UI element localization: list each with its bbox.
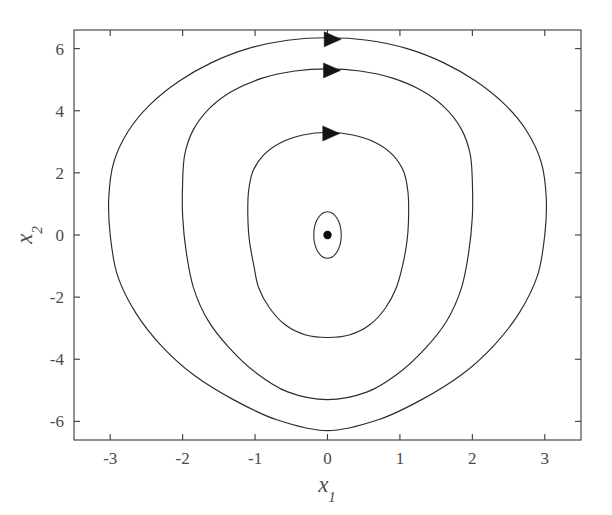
y-tick-label: 6 bbox=[56, 40, 65, 59]
y-tick-label: -6 bbox=[50, 412, 64, 431]
y-tick-label: -4 bbox=[50, 350, 65, 369]
phase-portrait-figure: -3-2-10123 -6-4-20246 x1 x2 bbox=[0, 0, 612, 515]
x-tick-label: 1 bbox=[396, 449, 405, 468]
phase-portrait-plot: -3-2-10123 -6-4-20246 x1 x2 bbox=[0, 0, 612, 515]
x-tick-label: 2 bbox=[468, 449, 477, 468]
y-tick-label: 0 bbox=[56, 226, 65, 245]
y-axis-tick-labels: -6-4-20246 bbox=[50, 40, 65, 432]
arrowhead-orbit-middle bbox=[323, 63, 340, 78]
x-axis-title: x1 bbox=[317, 472, 336, 505]
arrowhead-orbit-outer bbox=[324, 32, 341, 47]
arrowhead-orbit-inner bbox=[323, 126, 340, 141]
y-axis-title: x2 bbox=[12, 226, 45, 245]
flow-direction-arrowheads bbox=[323, 32, 341, 141]
x-axis-tick-labels: -3-2-10123 bbox=[103, 449, 549, 468]
y-tick-label: -2 bbox=[50, 288, 64, 307]
y-tick-label: 2 bbox=[56, 164, 65, 183]
x-tick-label: -3 bbox=[103, 449, 117, 468]
x-tick-label: 3 bbox=[541, 449, 550, 468]
x-tick-label: -1 bbox=[248, 449, 262, 468]
y-tick-label: 4 bbox=[56, 102, 65, 121]
x-tick-label: -2 bbox=[176, 449, 190, 468]
x-tick-label: 0 bbox=[323, 449, 332, 468]
equilibrium-point-marker bbox=[323, 231, 331, 239]
